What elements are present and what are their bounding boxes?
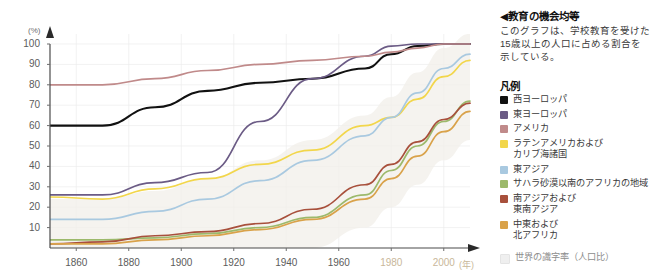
legend-swatch-icon [500, 195, 508, 203]
legend-item-label: アメリカ [513, 123, 549, 135]
legend-swatch-icon [500, 166, 508, 174]
legend-item-label: 東ヨーロッパ [513, 109, 567, 121]
legend-swatch-icon [500, 221, 508, 229]
legend-swatch-icon [500, 125, 508, 133]
line-chart-plot [0, 0, 495, 280]
legend-item-label: 世界の識字率（人口比） [515, 252, 614, 264]
legend-item-3[interactable]: ラテンアメリカおよびカリブ海諸国 [500, 138, 655, 161]
chart-panel: (%) 100908070605040302010 18601880190019… [0, 0, 495, 280]
panel-description: このグラフは、学校教育を受けた15歳以上の人口に占める割合を示している。 [500, 24, 650, 63]
legend-item-2[interactable]: アメリカ [500, 123, 655, 135]
legend-item-label: 中東および北アフリカ [513, 219, 558, 242]
legend-swatch-icon [500, 96, 508, 104]
world-literacy-band [50, 34, 470, 248]
legend-item-label: 東アジア [513, 164, 549, 176]
legend-swatch-icon [500, 140, 508, 148]
legend-list: 西ヨーロッパ東ヨーロッパアメリカラテンアメリカおよびカリブ海諸国東アジアサハラ砂… [500, 94, 655, 267]
legend-swatch-icon [500, 180, 508, 188]
legend-item-0[interactable]: 西ヨーロッパ [500, 94, 655, 106]
legend-item-6[interactable]: 南アジアおよび東南アジア [500, 193, 655, 216]
legend-item-7[interactable]: 中東および北アフリカ [500, 219, 655, 242]
legend-item-5[interactable]: サハラ砂漠以南のアフリカの地域 [500, 178, 655, 190]
legend-item-label: 南アジアおよび東南アジア [513, 193, 576, 216]
legend-heading: 凡例 [500, 78, 520, 93]
panel-title: ◀教育の機会均等 [500, 8, 652, 23]
legend-item-4[interactable]: 東アジア [500, 164, 655, 176]
legend-item-label: ラテンアメリカおよびカリブ海諸国 [513, 138, 603, 161]
chart-page: (%) 100908070605040302010 18601880190019… [0, 0, 655, 280]
legend-item-1[interactable]: 東ヨーロッパ [500, 109, 655, 121]
legend-item-label: 西ヨーロッパ [513, 94, 567, 106]
description-panel: ◀教育の機会均等 このグラフは、学校教育を受けた15歳以上の人口に占める割合を示… [498, 0, 655, 280]
legend-swatch-icon [500, 254, 510, 264]
legend-item-label: サハラ砂漠以南のアフリカの地域 [513, 178, 648, 190]
legend-item-world-literacy: 世界の識字率（人口比） [500, 252, 655, 264]
legend-swatch-icon [500, 111, 508, 119]
